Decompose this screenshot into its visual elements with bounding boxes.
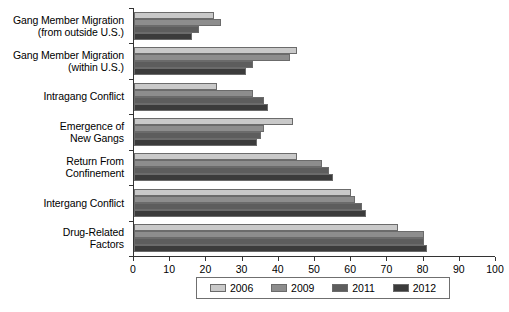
legend-label: 2011 xyxy=(352,282,375,294)
legend-label: 2009 xyxy=(291,282,314,294)
bar-2006-4 xyxy=(134,118,293,125)
category-label-line: Gang Member Migration xyxy=(0,14,124,26)
bar-2009-2 xyxy=(134,54,290,61)
category-label-line: Emergence of xyxy=(0,120,124,132)
bar-group xyxy=(134,83,496,111)
legend-swatch-icon xyxy=(332,284,348,292)
bar-2011-6 xyxy=(134,203,362,210)
category-label-line: (within U.S.) xyxy=(0,61,124,73)
x-tick-label: 0 xyxy=(118,263,148,275)
x-tick-mark xyxy=(205,257,206,261)
category-label-line: Gang Member Migration xyxy=(0,49,124,61)
category-label-4: Emergence ofNew Gangs xyxy=(0,120,124,144)
bar-2009-5 xyxy=(134,160,322,167)
legend-item-2006[interactable]: 2006 xyxy=(210,282,253,294)
category-label-7: Drug-RelatedFactors xyxy=(0,226,124,250)
bar-2012-4 xyxy=(134,139,257,146)
x-tick-mark xyxy=(242,257,243,261)
y-tick-mark xyxy=(129,43,133,44)
x-tick-label: 20 xyxy=(190,263,220,275)
category-label-2: Gang Member Migration(within U.S.) xyxy=(0,49,124,73)
bar-2012-1 xyxy=(134,33,192,40)
bar-2012-2 xyxy=(134,68,246,75)
legend-item-2011[interactable]: 2011 xyxy=(332,282,375,294)
category-label-line: Return From xyxy=(0,155,124,167)
legend-item-2009[interactable]: 2009 xyxy=(271,282,314,294)
category-label-6: Intergang Conflict xyxy=(0,197,124,209)
x-tick-label: 30 xyxy=(227,263,257,275)
bar-group xyxy=(134,153,496,181)
bar-group xyxy=(134,189,496,217)
category-label-line: Intragang Conflict xyxy=(0,90,124,102)
bar-2011-7 xyxy=(134,238,424,245)
y-tick-mark xyxy=(129,221,133,222)
x-tick-mark xyxy=(314,257,315,261)
x-tick-mark xyxy=(278,257,279,261)
x-tick-label: 60 xyxy=(335,263,365,275)
category-label-line: Confinement xyxy=(0,167,124,179)
category-axis-labels: Gang Member Migration(from outside U.S.)… xyxy=(0,8,128,256)
plot-area: 0102030405060708090100 xyxy=(133,8,495,256)
bar-2009-3 xyxy=(134,90,253,97)
bar-2006-2 xyxy=(134,47,297,54)
category-label-line: New Gangs xyxy=(0,132,124,144)
x-tick-mark xyxy=(459,257,460,261)
x-tick-mark xyxy=(133,257,134,261)
x-tick-mark xyxy=(423,257,424,261)
category-label-5: Return FromConfinement xyxy=(0,155,124,179)
bar-2009-7 xyxy=(134,231,424,238)
bar-2012-5 xyxy=(134,174,333,181)
bar-2006-7 xyxy=(134,224,398,231)
bar-2011-2 xyxy=(134,61,253,68)
bar-group xyxy=(134,47,496,75)
x-tick-mark xyxy=(350,257,351,261)
x-tick-label: 80 xyxy=(408,263,438,275)
bar-2006-1 xyxy=(134,12,214,19)
bar-group xyxy=(134,12,496,40)
bar-2009-4 xyxy=(134,125,264,132)
chart-legend: 2006200920112012 xyxy=(196,277,450,299)
bar-2011-3 xyxy=(134,97,264,104)
bar-2006-6 xyxy=(134,189,351,196)
bar-2012-3 xyxy=(134,104,268,111)
x-tick-label: 100 xyxy=(480,263,509,275)
x-tick-mark xyxy=(495,257,496,261)
legend-item-2012[interactable]: 2012 xyxy=(393,282,436,294)
bar-2006-5 xyxy=(134,153,297,160)
category-label-line: Intergang Conflict xyxy=(0,197,124,209)
x-tick-label: 70 xyxy=(371,263,401,275)
bar-2011-5 xyxy=(134,167,329,174)
legend-swatch-icon xyxy=(393,284,409,292)
x-tick-mark xyxy=(169,257,170,261)
y-tick-mark xyxy=(129,185,133,186)
bar-2012-7 xyxy=(134,245,427,252)
bar-2006-3 xyxy=(134,83,217,90)
x-tick-label: 90 xyxy=(444,263,474,275)
bar-2009-1 xyxy=(134,19,221,26)
category-label-3: Intragang Conflict xyxy=(0,90,124,102)
x-tick-label: 40 xyxy=(263,263,293,275)
y-tick-mark xyxy=(129,8,133,9)
bar-group xyxy=(134,118,496,146)
x-tick-mark xyxy=(386,257,387,261)
y-tick-mark xyxy=(129,114,133,115)
legend-swatch-icon xyxy=(210,284,226,292)
legend-label: 2006 xyxy=(230,282,253,294)
y-tick-mark xyxy=(129,79,133,80)
bar-2012-6 xyxy=(134,210,366,217)
category-label-1: Gang Member Migration(from outside U.S.) xyxy=(0,14,124,38)
bar-2011-1 xyxy=(134,26,199,33)
category-label-line: Factors xyxy=(0,238,124,250)
bar-2011-4 xyxy=(134,132,261,139)
x-tick-label: 50 xyxy=(299,263,329,275)
category-label-line: (from outside U.S.) xyxy=(0,26,124,38)
category-label-line: Drug-Related xyxy=(0,226,124,238)
bar-group xyxy=(134,224,496,252)
y-tick-mark xyxy=(129,150,133,151)
x-tick-label: 10 xyxy=(154,263,184,275)
legend-label: 2012 xyxy=(413,282,436,294)
grouped-bar-chart: Gang Member Migration(from outside U.S.)… xyxy=(0,0,509,312)
legend-swatch-icon xyxy=(271,284,287,292)
bar-2009-6 xyxy=(134,196,355,203)
